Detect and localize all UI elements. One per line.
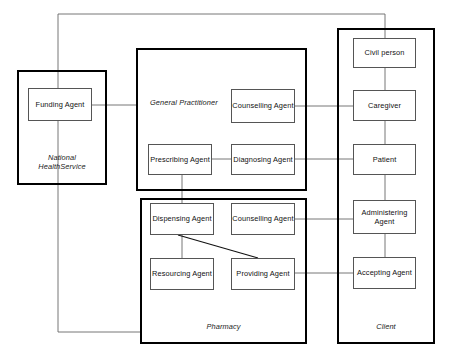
agent-box-caregiver[interactable]: Caregiver [353, 90, 416, 121]
container-label-pharmacy: Pharmacy [140, 322, 307, 331]
agent-box-prescribing-agent[interactable]: Prescribing Agent [148, 144, 212, 175]
agent-box-accepting-agent[interactable]: Accepting Agent [353, 257, 416, 289]
agent-box-civil-person[interactable]: Civil person [353, 38, 416, 68]
agent-box-patient[interactable]: Patient [353, 144, 416, 175]
agent-box-resourcing-agent[interactable]: Resourcing Agent [150, 258, 214, 290]
agent-box-counselling-agent-pharmacy[interactable]: Counselling Agent [231, 203, 295, 235]
agent-box-counselling-agent-gp[interactable]: Counselling Agent [231, 89, 295, 123]
container-label-client: Client [337, 322, 435, 331]
container-label-national-health-service: National HealthService [17, 153, 107, 172]
agent-box-administering-agent[interactable]: Administering Agent [353, 200, 416, 234]
agent-box-providing-agent[interactable]: Providing Agent [231, 258, 295, 290]
agent-box-diagnosing-agent[interactable]: Diagnosing Agent [231, 144, 295, 175]
agent-box-dispensing-agent[interactable]: Dispensing Agent [150, 203, 214, 235]
agent-box-funding-agent[interactable]: Funding Agent [28, 88, 92, 121]
agent-organisation-diagram: National HealthService General Practitio… [0, 0, 450, 358]
container-client[interactable] [337, 28, 435, 344]
